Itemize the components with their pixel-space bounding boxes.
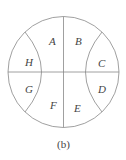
label-B: B — [75, 35, 82, 47]
label-C: C — [98, 57, 106, 69]
label-F: F — [49, 99, 57, 111]
label-D: D — [97, 83, 106, 95]
circle-diagram: A B C D E F G H (b) — [0, 0, 126, 160]
label-A: A — [48, 35, 56, 47]
caption: (b) — [57, 138, 70, 151]
label-G: G — [25, 83, 33, 95]
label-H: H — [24, 56, 34, 68]
label-E: E — [73, 102, 81, 114]
